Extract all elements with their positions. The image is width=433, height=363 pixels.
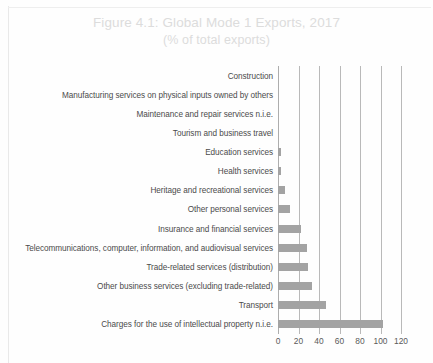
category-label: Heritage and recreational services bbox=[150, 186, 273, 195]
figure-page: Figure 4.1: Global Mode 1 Exports, 2017 … bbox=[0, 0, 433, 363]
bar-row: Telecommunications, computer, informatio… bbox=[278, 238, 401, 257]
bar bbox=[278, 320, 383, 328]
bar-row: Construction bbox=[278, 66, 401, 85]
bar-row: Tourism and business travel bbox=[278, 123, 401, 142]
bar-row: Heritage and recreational services bbox=[278, 181, 401, 200]
bar-row: Other personal services bbox=[278, 200, 401, 219]
bar-rows: ConstructionManufacturing services on ph… bbox=[278, 66, 401, 334]
bar bbox=[278, 186, 285, 194]
bar bbox=[278, 244, 307, 252]
bar-row: Maintenance and repair services n.i.e. bbox=[278, 104, 401, 123]
bar-row: Health services bbox=[278, 162, 401, 181]
category-label: Trade-related services (distribution) bbox=[146, 262, 273, 271]
bar-row: Other business services (excluding trade… bbox=[278, 276, 401, 295]
category-label: Education services bbox=[205, 148, 273, 157]
category-label: Tourism and business travel bbox=[173, 128, 273, 137]
bar-chart-plot-area: ConstructionManufacturing services on ph… bbox=[278, 66, 401, 334]
bar bbox=[278, 225, 301, 233]
bar bbox=[278, 263, 308, 271]
bar-row: Education services bbox=[278, 143, 401, 162]
gridline-120 bbox=[401, 66, 402, 334]
category-label: Construction bbox=[228, 71, 273, 80]
figure-title-block: Figure 4.1: Global Mode 1 Exports, 2017 … bbox=[0, 14, 433, 49]
category-label: Insurance and financial services bbox=[158, 224, 273, 233]
x-tick-label: 60 bbox=[335, 336, 344, 346]
x-tick-label: 0 bbox=[276, 336, 281, 346]
category-label: Other business services (excluding trade… bbox=[97, 281, 273, 290]
category-label: Transport bbox=[239, 301, 273, 310]
bar bbox=[278, 205, 290, 213]
bar bbox=[278, 167, 281, 175]
page-frame-top-rule bbox=[8, 7, 431, 8]
x-axis-tick-labels: 020406080100120 bbox=[278, 336, 401, 350]
x-tick-label: 20 bbox=[294, 336, 303, 346]
category-label: Manufacturing services on physical input… bbox=[62, 90, 273, 99]
category-label: Other personal services bbox=[188, 205, 273, 214]
x-tick-label: 40 bbox=[314, 336, 323, 346]
bar-row: Trade-related services (distribution) bbox=[278, 257, 401, 276]
category-label: Health services bbox=[218, 167, 273, 176]
bar-row: Insurance and financial services bbox=[278, 219, 401, 238]
x-tick-label: 100 bbox=[374, 336, 388, 346]
category-label: Telecommunications, computer, informatio… bbox=[25, 243, 273, 252]
bar-row: Transport bbox=[278, 296, 401, 315]
bar-row: Charges for the use of intellectual prop… bbox=[278, 315, 401, 334]
page-frame-left-rule bbox=[8, 6, 9, 363]
figure-subtitle: (% of total exports) bbox=[0, 32, 433, 49]
category-label: Charges for the use of intellectual prop… bbox=[101, 320, 273, 329]
x-tick-label: 80 bbox=[355, 336, 364, 346]
bar-row: Manufacturing services on physical input… bbox=[278, 85, 401, 104]
bar bbox=[278, 282, 312, 290]
bar bbox=[278, 301, 326, 309]
x-tick-label: 120 bbox=[394, 336, 408, 346]
bar bbox=[278, 148, 281, 156]
figure-title: Figure 4.1: Global Mode 1 Exports, 2017 bbox=[0, 14, 433, 32]
category-label: Maintenance and repair services n.i.e. bbox=[137, 109, 273, 118]
